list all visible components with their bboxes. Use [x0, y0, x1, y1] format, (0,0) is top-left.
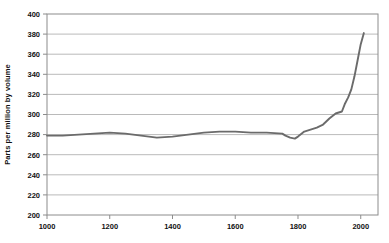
x-tick-label: 2000 [352, 222, 369, 231]
co2-concentration-chart: Parts per million by volume 200220240260… [0, 0, 389, 243]
x-tick-label: 1800 [290, 222, 307, 231]
y-tick-label: 200 [27, 211, 40, 220]
gridlines-group [47, 34, 378, 195]
x-tick-label: 1200 [101, 222, 118, 231]
x-tick-label: 1400 [164, 222, 181, 231]
data-series-line [47, 33, 364, 139]
x-tick-label: 1600 [227, 222, 244, 231]
y-tick-label: 260 [27, 151, 40, 160]
x-tick-labels-group: 100012001400160018002000 [39, 222, 369, 231]
y-tick-label: 280 [27, 130, 40, 139]
y-tick-label: 240 [27, 171, 40, 180]
y-tick-label: 300 [27, 110, 40, 119]
x-tick-label: 1000 [39, 222, 56, 231]
y-tick-label: 220 [27, 191, 40, 200]
y-tick-label: 360 [27, 50, 40, 59]
y-tick-label: 320 [27, 90, 40, 99]
y-tick-label: 380 [27, 30, 40, 39]
y-tick-label: 340 [27, 70, 40, 79]
x-tick-marks-group [47, 215, 361, 219]
y-tick-label: 400 [27, 10, 40, 19]
y-tick-marks-group [43, 14, 47, 215]
plot-area: 200220240260280300320340360380400 100012… [0, 0, 389, 243]
y-tick-labels-group: 200220240260280300320340360380400 [27, 10, 40, 220]
